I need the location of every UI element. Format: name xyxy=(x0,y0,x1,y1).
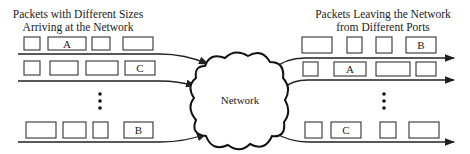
outgoing-packets: BAC xyxy=(302,37,439,138)
outgoing-packet-0-1 xyxy=(347,37,362,53)
right-caption-line2: from Different Ports xyxy=(336,21,430,33)
outgoing-ellipsis-dot xyxy=(382,99,386,103)
outgoing-packet-1-2 xyxy=(376,62,410,76)
outgoing-packet-1-0 xyxy=(303,62,318,76)
incoming-ellipsis-dot xyxy=(98,99,102,103)
outgoing-ellipsis-dot xyxy=(382,92,386,96)
outgoing-link-2 xyxy=(284,80,454,88)
incoming-packet-2-1 xyxy=(63,122,86,138)
right-caption-line1: Packets Leaving the Network xyxy=(315,8,451,21)
network-cloud: Network xyxy=(190,52,288,149)
network-label: Network xyxy=(221,94,260,106)
incoming-packets: ACB xyxy=(24,37,155,138)
outgoing-packet-2-0 xyxy=(305,122,322,138)
incoming-packet-0-0 xyxy=(24,37,40,50)
left-caption-line2: Arriving at the Network xyxy=(23,21,134,34)
incoming-ellipsis-dot xyxy=(98,106,102,110)
outgoing-ellipsis-dot xyxy=(382,106,386,110)
incoming-packet-2-2 xyxy=(93,122,108,138)
outgoing-packet-2-2 xyxy=(380,122,396,138)
left-caption: Packets with Different Sizes Arriving at… xyxy=(13,8,144,34)
incoming-packet-1-1 xyxy=(50,61,78,75)
network-packet-diagram: Packets with Different Sizes Arriving at… xyxy=(0,0,470,154)
right-caption: Packets Leaving the Network from Differe… xyxy=(315,8,451,33)
incoming-packet-2-0 xyxy=(26,122,56,138)
incoming-packet-0-2 xyxy=(92,37,110,50)
incoming-ellipsis-dot xyxy=(98,92,102,96)
incoming-packet-label: B xyxy=(135,124,142,136)
incoming-packet-1-2 xyxy=(86,61,118,75)
outgoing-packet-0-2 xyxy=(376,37,392,53)
incoming-link-2 xyxy=(18,81,195,86)
outgoing-packet-2-3 xyxy=(409,122,439,138)
left-caption-line1: Packets with Different Sizes xyxy=(13,8,144,20)
outgoing-packet-label: B xyxy=(417,39,424,51)
incoming-packet-label: A xyxy=(63,38,71,50)
outgoing-packet-1-3 xyxy=(416,62,436,76)
outgoing-packet-label: A xyxy=(346,63,354,75)
incoming-packet-0-3 xyxy=(123,37,153,50)
incoming-packet-1-0 xyxy=(24,61,40,75)
outgoing-packet-0-0 xyxy=(302,37,332,53)
incoming-packet-label: C xyxy=(136,62,143,74)
outgoing-packet-label: C xyxy=(342,124,349,136)
